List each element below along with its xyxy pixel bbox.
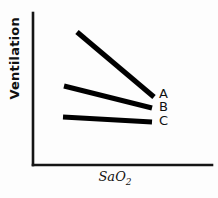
series-line-c (63, 117, 152, 122)
x-axis-label-subscript: 2 (126, 177, 132, 187)
ventilation-sao2-chart: Ventilation SaO2 A B C (0, 0, 218, 198)
series-label-b: B (159, 100, 168, 113)
series-line-a (77, 32, 154, 97)
series-label-c: C (159, 114, 168, 127)
y-axis-label: Ventilation (7, 20, 22, 100)
series-line-b (64, 86, 152, 108)
x-axis-label: SaO2 (60, 169, 170, 187)
x-axis-label-main: SaO (98, 169, 125, 184)
